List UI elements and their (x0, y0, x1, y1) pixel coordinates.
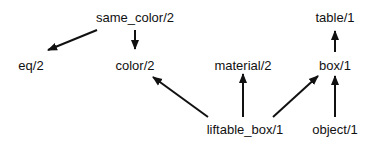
node-table: table/1 (315, 10, 354, 25)
node-liftable-box: liftable_box/1 (207, 122, 284, 137)
node-eq: eq/2 (18, 58, 43, 73)
edges-group (48, 30, 335, 117)
node-object: object/1 (312, 122, 358, 137)
edge-liftable_box-to-box-arrow-icon (273, 76, 318, 117)
dependency-graph: same_color/2eq/2color/2material/2table/1… (0, 0, 374, 150)
nodes-group: same_color/2eq/2color/2material/2table/1… (18, 10, 357, 137)
node-color: color/2 (115, 58, 154, 73)
node-material: material/2 (214, 58, 271, 73)
node-same-color: same_color/2 (96, 10, 174, 25)
edge-liftable_box-to-color-arrow-icon (153, 77, 208, 117)
edge-same_color-to-eq-arrow-icon (48, 30, 97, 50)
node-box: box/1 (319, 58, 351, 73)
